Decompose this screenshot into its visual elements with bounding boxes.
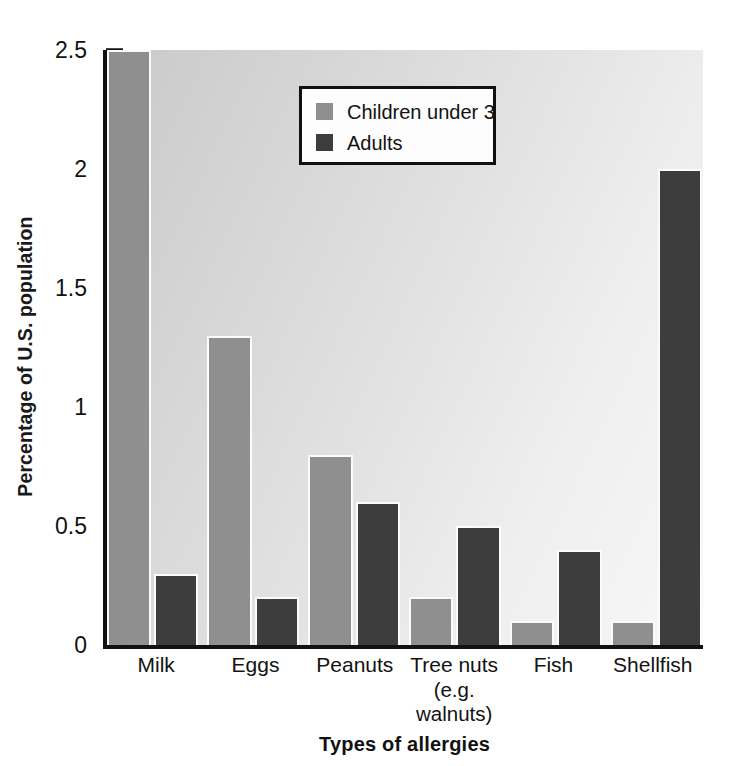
- x-tick-label-tree-nuts: Tree nuts(e.g. walnuts): [404, 653, 503, 726]
- y-axis-tick-labels: 00.511.522.5: [0, 0, 105, 766]
- legend-swatch-adults-icon: [316, 134, 333, 151]
- bar-group-shellfish: [611, 50, 703, 645]
- y-tick-label-2: 2: [74, 156, 87, 183]
- bar-group-gap: [602, 50, 611, 645]
- x-tick-label-eggs: Eggs: [206, 653, 305, 726]
- bar-peanuts-adults: [356, 502, 400, 645]
- legend-item-adults: Adults: [316, 127, 493, 158]
- x-axis-tick-labels: MilkEggsPeanutsTree nuts(e.g. walnuts)Fi…: [107, 653, 703, 726]
- bar-milk-children: [107, 50, 151, 645]
- legend: Children under 3 Adults: [299, 86, 496, 165]
- bar-eggs-adults: [255, 597, 299, 645]
- legend-swatch-children-icon: [316, 103, 333, 120]
- legend-item-children: Children under 3: [316, 96, 493, 127]
- x-tick-label-shellfish: Shellfish: [603, 653, 702, 726]
- bar-fish-children: [510, 621, 554, 645]
- x-tick-main: Milk: [138, 653, 175, 676]
- x-tick-main: Shellfish: [613, 653, 692, 676]
- y-tick-label-1.5: 1.5: [55, 275, 87, 302]
- bar-group-milk: [107, 50, 199, 645]
- x-tick-main: Eggs: [232, 653, 280, 676]
- y-tick-label-2.5: 2.5: [55, 37, 87, 64]
- bar-tree-nuts-adults: [456, 526, 500, 645]
- x-tick-main: Tree nuts: [410, 653, 498, 676]
- x-tick-sublabel: (e.g. walnuts): [404, 678, 503, 726]
- bar-peanuts-children: [308, 455, 352, 645]
- bar-inner-gap: [151, 50, 154, 645]
- x-axis-line: [103, 645, 703, 649]
- x-tick-label-fish: Fish: [504, 653, 603, 726]
- legend-label-adults: Adults: [347, 133, 403, 153]
- bar-group-fish: [510, 50, 602, 645]
- bar-group-eggs: [207, 50, 299, 645]
- legend-label-children: Children under 3: [347, 102, 495, 122]
- x-tick-label-peanuts: Peanuts: [305, 653, 404, 726]
- y-tick-label-0.5: 0.5: [55, 513, 87, 540]
- bar-milk-adults: [154, 574, 198, 645]
- bar-group-gap: [198, 50, 207, 645]
- x-axis-title: Types of allergies: [107, 733, 703, 756]
- bar-eggs-children: [207, 336, 251, 645]
- y-tick-label-0: 0: [74, 632, 87, 659]
- bar-shellfish-children: [611, 621, 655, 645]
- bar-tree-nuts-children: [409, 597, 453, 645]
- bar-chart-figure: Percentage of U.S. population 00.511.522…: [0, 0, 731, 766]
- x-tick-main: Fish: [534, 653, 574, 676]
- bar-group-gap: [501, 50, 510, 645]
- x-tick-main: Peanuts: [316, 653, 393, 676]
- bar-inner-gap: [252, 50, 255, 645]
- y-tick-label-1: 1: [74, 394, 87, 421]
- x-tick-label-milk: Milk: [107, 653, 206, 726]
- bar-fish-adults: [557, 550, 601, 645]
- bar-shellfish-adults: [658, 169, 702, 645]
